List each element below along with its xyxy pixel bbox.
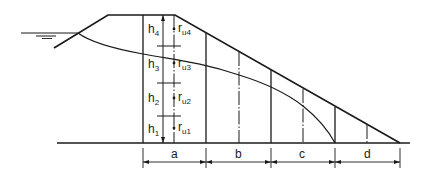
label-h2: h2 — [148, 91, 160, 107]
zone-label-c: c — [299, 147, 305, 161]
dam-cross-section-diagram: h4 h3 h2 h1 ru4 ru3 ru2 ru1 a b c d — [0, 0, 421, 175]
zone-label-d: d — [364, 147, 371, 161]
label-ru3: ru3 — [178, 56, 191, 72]
zone-label-b: b — [235, 147, 242, 161]
label-ru1: ru1 — [178, 120, 191, 136]
dam-outline — [54, 15, 400, 143]
label-h3: h3 — [148, 57, 160, 73]
label-h1: h1 — [148, 122, 160, 138]
zone-label-a: a — [171, 147, 178, 161]
label-h4: h4 — [148, 22, 160, 38]
label-ru2: ru2 — [178, 90, 191, 106]
